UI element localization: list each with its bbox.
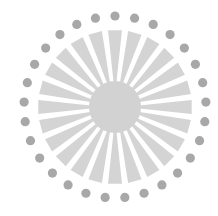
ring-dot [130, 14, 139, 23]
ring-dot [30, 60, 39, 69]
ring-dot [173, 168, 182, 177]
sun-ray [108, 30, 122, 85]
ring-dot [198, 78, 207, 87]
ring-dot [20, 97, 29, 106]
ring-dot [81, 189, 90, 198]
sun-ray [108, 129, 122, 184]
ring-dot [191, 60, 200, 69]
ring-dot [139, 189, 148, 198]
ring-dot [101, 193, 110, 202]
ring-dot [26, 136, 35, 145]
sun-ray [137, 100, 192, 114]
sun-ray [38, 100, 93, 114]
ring-dot [149, 20, 158, 29]
sunburst-graphic [0, 0, 218, 216]
ring-dot [21, 117, 30, 126]
sun-hub [89, 81, 141, 133]
ring-dot [91, 14, 100, 23]
ring-dot [180, 43, 189, 52]
ring-dot [63, 180, 72, 189]
ring-dot [195, 136, 204, 145]
ring-dot [23, 78, 32, 87]
ring-dot [120, 193, 129, 202]
ring-dot [201, 97, 210, 106]
ring-dot [110, 11, 119, 20]
ring-dot [35, 153, 44, 162]
ring-dot [186, 153, 195, 162]
ring-dot [72, 20, 81, 29]
ring-dot [48, 168, 57, 177]
ring-dot [55, 30, 64, 39]
ring-dot [41, 43, 50, 52]
ring-dot [165, 30, 174, 39]
ring-dot [157, 180, 166, 189]
ring-dot [200, 117, 209, 126]
